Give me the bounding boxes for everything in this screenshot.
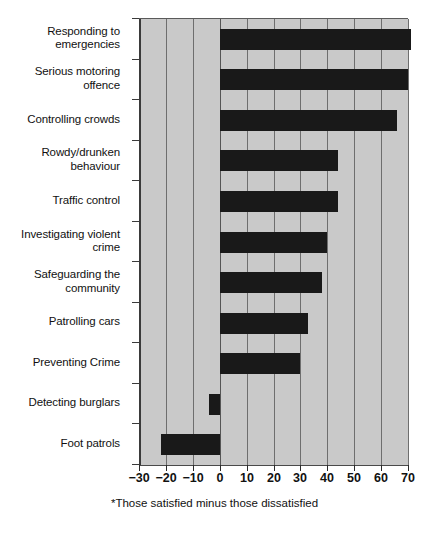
category-label: Controlling crowds xyxy=(0,113,120,127)
category-label-line: Safeguarding the xyxy=(0,268,120,282)
category-label-line: Detecting burglars xyxy=(0,396,120,410)
category-label-line: Preventing Crime xyxy=(0,356,120,370)
category-label-line: Investigating violent xyxy=(0,228,120,242)
category-label-line: Foot patrols xyxy=(0,437,120,451)
chart-footnote: *Those satisfied minus those dissatisfie… xyxy=(0,497,429,509)
category-label: Traffic control xyxy=(0,194,120,208)
category-label-line: Traffic control xyxy=(0,194,120,208)
category-label: Foot patrols xyxy=(0,437,120,451)
category-label: Patrolling cars xyxy=(0,315,120,329)
category-label: Preventing Crime xyxy=(0,356,120,370)
bar xyxy=(220,150,338,171)
category-label-line: Controlling crowds xyxy=(0,113,120,127)
category-label: Investigating violentcrime xyxy=(0,228,120,255)
bar xyxy=(220,69,408,90)
category-label: Rowdy/drunkenbehaviour xyxy=(0,146,120,173)
category-label: Responding toemergencies xyxy=(0,25,120,52)
bar xyxy=(220,29,411,50)
category-label-line: Responding to xyxy=(0,25,120,39)
x-axis: −30−20−10010203040506070 xyxy=(139,465,408,489)
category-label-line: behaviour xyxy=(0,160,120,174)
bar xyxy=(220,110,398,131)
category-label-line: emergencies xyxy=(0,38,120,52)
bar xyxy=(220,313,309,334)
category-label-line: Serious motoring xyxy=(0,65,120,79)
category-label: Serious motoringoffence xyxy=(0,65,120,92)
bar xyxy=(220,353,301,374)
bar xyxy=(209,394,220,415)
horizontal-bar-chart: Responding toemergenciesSerious motoring… xyxy=(0,0,429,534)
category-label: Detecting burglars xyxy=(0,396,120,410)
category-label-line: Patrolling cars xyxy=(0,315,120,329)
bar-series xyxy=(139,19,408,465)
bar xyxy=(220,272,322,293)
bar xyxy=(220,232,328,253)
gridline-70 xyxy=(408,19,409,465)
category-label-line: Rowdy/drunken xyxy=(0,146,120,160)
x-axis-tick-label: 70 xyxy=(388,471,428,485)
category-label-line: community xyxy=(0,282,120,296)
category-label: Safeguarding thecommunity xyxy=(0,268,120,295)
category-label-line: offence xyxy=(0,79,120,93)
category-label-line: crime xyxy=(0,241,120,255)
bar xyxy=(161,434,220,455)
category-axis-labels: Responding toemergenciesSerious motoring… xyxy=(0,18,126,464)
bar xyxy=(220,191,338,212)
plot-area xyxy=(139,18,408,466)
